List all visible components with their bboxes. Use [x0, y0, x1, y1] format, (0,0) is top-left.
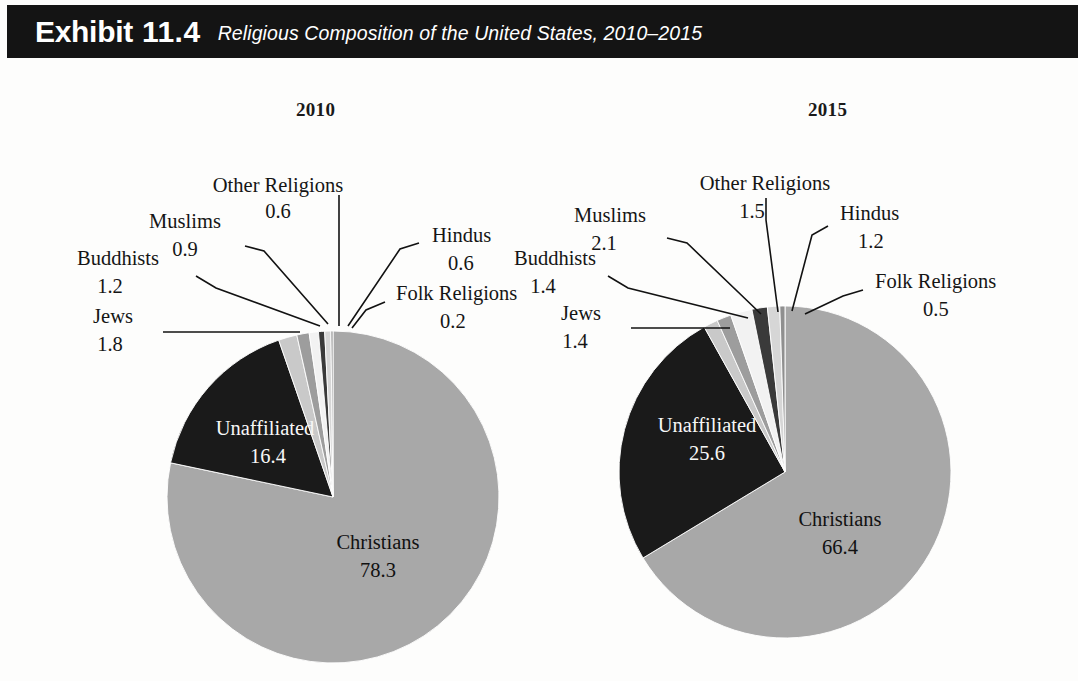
- label-muslims-value-2010: 0.9: [172, 238, 198, 260]
- label-folk-religions-name-2015: Folk Religions: [875, 270, 996, 293]
- label-hindus-value-2010: 0.6: [448, 252, 474, 274]
- label-hindus-name-2015: Hindus: [840, 202, 899, 224]
- label-other-religions-value-2015: 1.5: [739, 200, 765, 222]
- label-christians-name-2010: Christians: [336, 531, 419, 553]
- label-folk-religions-value-2010: 0.2: [440, 310, 466, 332]
- pie-svg-2015: Other Religions 1.5 Muslims 2.1 Buddhist…: [495, 60, 1078, 681]
- label-jews-value-2010: 1.8: [97, 333, 123, 355]
- label-buddhists-name-2010: Buddhists: [77, 247, 159, 269]
- exhibit-label: Exhibit: [35, 15, 133, 49]
- label-hindus-name-2010: Hindus: [432, 224, 491, 246]
- label-jews-name-2015: Jews: [561, 302, 601, 324]
- leader-buddhists-2010: [196, 276, 320, 326]
- label-other-religions-value-2010: 0.6: [265, 200, 291, 222]
- leader-hindus-2015: [792, 226, 828, 311]
- label-buddhists-value-2015: 1.4: [530, 275, 556, 297]
- label-jews-name-2010: Jews: [93, 305, 133, 327]
- label-unaffiliated-name-2010: Unaffiliated: [216, 417, 315, 439]
- exhibit-page: Exhibit 11.4 Religious Composition of th…: [0, 0, 1078, 681]
- label-unaffiliated-name-2015: Unaffiliated: [658, 414, 757, 436]
- exhibit-subtitle: Religious Composition of the United Stat…: [218, 22, 702, 45]
- label-muslims-name-2015: Muslims: [574, 204, 646, 226]
- label-buddhists-value-2010: 1.2: [97, 275, 123, 297]
- label-muslims-name-2010: Muslims: [149, 210, 221, 232]
- leader-muslims-2010: [245, 246, 328, 324]
- leader-muslims-2015: [667, 238, 761, 314]
- label-christians-name-2015: Christians: [798, 508, 881, 530]
- label-jews-value-2015: 1.4: [562, 330, 588, 352]
- label-buddhists-name-2015: Buddhists: [514, 247, 596, 269]
- label-other-religions-name-2010: Other Religions: [213, 174, 343, 197]
- label-hindus-value-2015: 1.2: [858, 230, 884, 252]
- label-other-religions-name-2015: Other Religions: [700, 172, 830, 195]
- leader-folk-2015: [805, 290, 863, 314]
- label-folk-religions-value-2015: 0.5: [923, 298, 949, 320]
- pie-slices-2010: [167, 331, 499, 663]
- exhibit-header-band: Exhibit 11.4 Religious Composition of th…: [7, 5, 1078, 58]
- exhibit-number: 11.4: [142, 15, 201, 49]
- label-unaffiliated-value-2015: 25.6: [689, 442, 725, 464]
- leader-other-2015: [766, 198, 778, 312]
- label-christians-value-2015: 66.4: [822, 536, 858, 558]
- label-unaffiliated-value-2010: 16.4: [250, 445, 286, 467]
- leader-folk-2010: [352, 302, 385, 328]
- label-christians-value-2010: 78.3: [360, 559, 396, 581]
- pie-slices-2015: [619, 306, 951, 638]
- leader-lines-2015: [608, 198, 863, 328]
- pie-svg-2010: Other Religions 0.6 Muslims 0.9 Buddhist…: [0, 60, 540, 681]
